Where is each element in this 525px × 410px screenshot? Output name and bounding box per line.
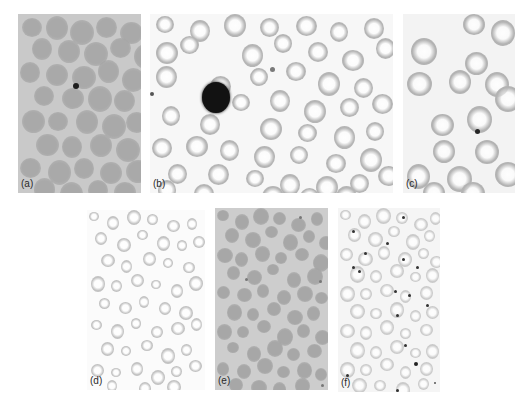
blood-cell bbox=[194, 184, 214, 193]
blood-cell bbox=[297, 286, 313, 302]
blood-cell bbox=[193, 236, 205, 248]
blood-cell bbox=[495, 86, 515, 112]
blood-cell bbox=[366, 122, 384, 141]
blood-cell bbox=[151, 326, 163, 338]
blood-cell bbox=[96, 17, 117, 38]
blood-cell bbox=[179, 306, 193, 320]
blood-cell bbox=[167, 380, 181, 390]
blood-cell bbox=[126, 160, 141, 183]
blood-cell bbox=[370, 346, 382, 359]
blood-cell bbox=[295, 378, 310, 390]
blood-cell bbox=[163, 258, 173, 268]
blood-cell bbox=[350, 304, 365, 319]
inclusion-dot bbox=[396, 389, 399, 392]
blood-cell bbox=[111, 368, 121, 377]
blood-cell bbox=[265, 226, 278, 238]
blood-cell bbox=[426, 306, 439, 319]
blood-cell bbox=[410, 272, 421, 282]
blood-cell bbox=[58, 40, 80, 63]
blood-cell bbox=[360, 148, 382, 172]
blood-cell bbox=[400, 366, 411, 379]
inclusion-dot bbox=[394, 290, 397, 293]
blood-cell bbox=[180, 36, 199, 54]
blood-cell bbox=[177, 240, 187, 251]
blood-cell bbox=[287, 348, 300, 361]
inclusion-dot bbox=[352, 266, 355, 269]
blood-cell bbox=[295, 248, 309, 261]
blood-cell bbox=[274, 34, 292, 53]
blood-cell bbox=[307, 306, 320, 321]
blood-cell bbox=[340, 210, 351, 220]
blood-cell bbox=[91, 320, 102, 330]
blood-cell bbox=[191, 318, 202, 331]
blood-cell bbox=[139, 382, 151, 390]
blood-cell bbox=[296, 16, 317, 36]
blood-cell bbox=[297, 324, 310, 338]
blood-cell bbox=[127, 210, 141, 225]
inclusion-dot bbox=[416, 266, 419, 269]
blood-cell bbox=[156, 42, 178, 64]
blood-cell bbox=[374, 380, 386, 391]
blood-cell bbox=[237, 288, 252, 302]
blood-cell bbox=[62, 88, 84, 109]
inclusion-dot bbox=[364, 252, 367, 255]
blood-cell bbox=[449, 70, 471, 94]
blood-cell bbox=[235, 214, 249, 230]
blood-cell bbox=[433, 140, 455, 163]
panel-b: (b) bbox=[150, 14, 393, 193]
blood-cell bbox=[60, 182, 83, 193]
blood-cell bbox=[318, 72, 340, 96]
panel-c: (c) bbox=[403, 14, 515, 193]
blood-cell bbox=[62, 136, 82, 158]
blood-cell bbox=[342, 50, 364, 71]
blood-cell bbox=[420, 362, 433, 376]
blood-cell bbox=[200, 114, 220, 135]
blood-cell bbox=[101, 342, 114, 356]
blood-cell bbox=[257, 320, 271, 333]
blood-cell bbox=[275, 252, 287, 264]
inclusion-dot bbox=[408, 294, 411, 297]
blood-cell bbox=[247, 270, 262, 285]
blood-cell bbox=[224, 14, 246, 37]
blood-cell bbox=[119, 302, 132, 314]
blood-cell bbox=[217, 362, 229, 376]
blood-cell bbox=[217, 248, 233, 263]
blood-cell bbox=[340, 324, 355, 338]
blood-cell bbox=[378, 166, 393, 186]
blood-cell bbox=[370, 308, 382, 319]
blood-cell bbox=[283, 234, 298, 251]
blood-cell bbox=[410, 348, 421, 358]
blood-cell bbox=[131, 362, 143, 376]
blood-cell bbox=[287, 272, 301, 288]
blood-cell bbox=[273, 212, 286, 225]
blood-cell bbox=[141, 340, 153, 351]
inclusion-dot bbox=[245, 278, 248, 281]
blood-cell bbox=[122, 68, 141, 92]
blood-cell bbox=[315, 330, 328, 345]
blood-cell bbox=[32, 38, 52, 60]
blood-cell bbox=[171, 366, 182, 377]
blood-cell bbox=[360, 288, 372, 300]
blood-cell bbox=[273, 382, 286, 390]
blood-cell bbox=[267, 340, 283, 357]
blood-cell bbox=[46, 16, 68, 40]
blood-cell bbox=[380, 358, 394, 371]
blood-cell bbox=[157, 236, 170, 251]
inclusion-dot bbox=[319, 280, 322, 283]
blood-cell bbox=[352, 378, 367, 392]
blood-cell bbox=[217, 286, 230, 299]
blood-cell bbox=[426, 344, 439, 359]
blood-cell bbox=[424, 230, 435, 242]
blood-cell bbox=[308, 42, 328, 62]
blood-cell bbox=[227, 304, 242, 321]
nucleated-cell bbox=[202, 82, 230, 113]
blood-cell bbox=[22, 18, 42, 37]
blood-cell bbox=[217, 210, 229, 221]
blood-cell bbox=[91, 276, 105, 292]
blood-cell bbox=[411, 38, 437, 65]
blood-cell bbox=[237, 326, 249, 338]
blood-cell bbox=[430, 212, 440, 225]
blood-cell bbox=[257, 284, 269, 298]
blood-cell bbox=[465, 52, 488, 75]
blood-cell bbox=[431, 114, 454, 136]
